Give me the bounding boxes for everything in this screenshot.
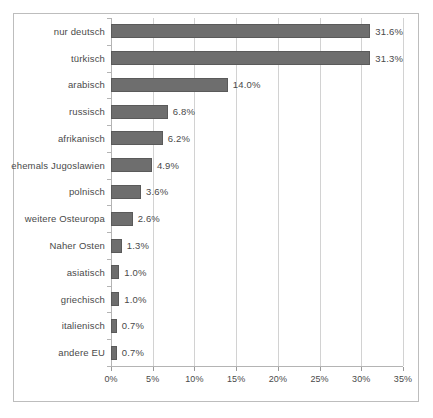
gridline-35%	[403, 18, 404, 366]
bar-row: Naher Osten1.3%	[111, 232, 403, 259]
x-axis-tick-labels: 0%5%10%15%20%25%30%35%	[111, 367, 403, 389]
bar	[111, 78, 228, 92]
y-tick-mark	[107, 152, 111, 153]
x-tick-label: 35%	[394, 374, 412, 384]
y-tick-mark	[107, 259, 111, 260]
category-label: russisch	[69, 106, 105, 117]
x-tick-mark	[278, 367, 279, 371]
bar-value-label: 1.3%	[127, 240, 149, 251]
category-label: italienisch	[62, 320, 105, 331]
bar	[111, 131, 163, 145]
bar	[111, 239, 122, 253]
category-label: nur deutsch	[54, 26, 105, 37]
category-label: polnisch	[69, 186, 105, 197]
category-label: arabisch	[68, 79, 105, 90]
bar	[111, 185, 141, 199]
bar	[111, 158, 152, 172]
category-label: asiatisch	[67, 267, 105, 278]
y-tick-mark	[107, 45, 111, 46]
x-tick-label: 5%	[146, 374, 159, 384]
chart-frame: nur deutsch31.6%türkisch31.3%arabisch14.…	[13, 13, 419, 402]
bar	[111, 105, 168, 119]
bar-value-label: 6.8%	[173, 106, 195, 117]
plot-area: nur deutsch31.6%türkisch31.3%arabisch14.…	[111, 18, 403, 366]
bar-value-label: 3.6%	[146, 186, 168, 197]
bar-value-label: 4.9%	[157, 160, 179, 171]
bar-value-label: 14.0%	[233, 79, 261, 90]
category-label: weitere Osteuropa	[25, 213, 105, 224]
bar-value-label: 31.3%	[375, 53, 403, 64]
bar-row: weitere Osteuropa2.6%	[111, 205, 403, 232]
y-tick-mark	[107, 98, 111, 99]
x-tick-mark	[403, 367, 404, 371]
bar-row: afrikanisch6.2%	[111, 125, 403, 152]
category-label: griechisch	[61, 294, 105, 305]
y-tick-mark	[107, 205, 111, 206]
x-tick-label: 25%	[310, 374, 328, 384]
y-tick-mark	[107, 312, 111, 313]
category-label: Naher Osten	[49, 240, 105, 251]
y-tick-mark	[107, 286, 111, 287]
bar-row: polnisch3.6%	[111, 179, 403, 206]
x-tick-label: 20%	[269, 374, 287, 384]
y-tick-mark	[107, 179, 111, 180]
bar-row: italienisch0.7%	[111, 312, 403, 339]
category-label: afrikanisch	[58, 133, 105, 144]
x-tick-label: 10%	[185, 374, 203, 384]
x-tick-mark	[111, 367, 112, 371]
bar	[111, 346, 117, 360]
bar-row: griechisch1.0%	[111, 286, 403, 313]
x-tick-mark	[361, 367, 362, 371]
y-tick-mark	[107, 232, 111, 233]
bar-value-label: 1.0%	[124, 267, 146, 278]
y-tick-mark	[107, 125, 111, 126]
bar	[111, 51, 370, 65]
category-label: andere EU	[58, 347, 105, 358]
category-label: türkisch	[71, 53, 105, 64]
y-tick-mark	[107, 72, 111, 73]
x-tick-label: 30%	[352, 374, 370, 384]
bar-row: ehemals Jugoslawien4.9%	[111, 152, 403, 179]
bar-value-label: 31.6%	[375, 26, 403, 37]
x-tick-label: 0%	[104, 374, 117, 384]
bar-row: arabisch14.0%	[111, 72, 403, 99]
x-tick-mark	[320, 367, 321, 371]
bar-value-label: 6.2%	[168, 133, 190, 144]
bar	[111, 292, 119, 306]
x-tick-mark	[153, 367, 154, 371]
x-tick-mark	[236, 367, 237, 371]
x-tick-mark	[194, 367, 195, 371]
bar	[111, 319, 117, 333]
bar-value-label: 0.7%	[122, 320, 144, 331]
x-tick-label: 15%	[227, 374, 245, 384]
bar-value-label: 0.7%	[122, 347, 144, 358]
category-label: ehemals Jugoslawien	[11, 160, 105, 171]
bar	[111, 212, 133, 226]
bar	[111, 24, 370, 38]
bar-row: asiatisch1.0%	[111, 259, 403, 286]
bar-value-label: 1.0%	[124, 294, 146, 305]
y-tick-mark	[107, 339, 111, 340]
bar-value-label: 2.6%	[138, 213, 160, 224]
bar-row: andere EU0.7%	[111, 339, 403, 366]
bar-row: russisch6.8%	[111, 98, 403, 125]
bar-row: türkisch31.3%	[111, 45, 403, 72]
y-tick-mark	[107, 18, 111, 19]
bar-row: nur deutsch31.6%	[111, 18, 403, 45]
bar	[111, 265, 119, 279]
